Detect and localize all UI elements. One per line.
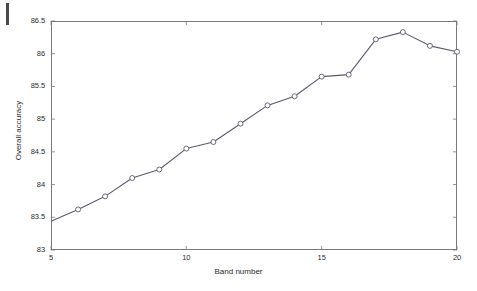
y-axis-tick-label: 85 [1,114,45,123]
x-axis-title: Band number [0,267,477,276]
data-series-line [51,32,457,221]
x-axis-tick-label: 15 [307,253,337,262]
data-point-marker [319,74,324,79]
data-point-marker [157,167,162,172]
y-axis-tick-label: 83.5 [1,212,45,221]
plot-drawing-area [0,0,477,291]
data-point-marker [211,140,216,145]
data-point-marker [373,37,378,42]
data-point-marker [265,103,270,108]
y-axis-tick-label: 86 [1,49,45,58]
data-point-marker [455,49,460,54]
y-axis-tick-label: 86.5 [1,16,45,25]
data-point-marker [76,207,81,212]
y-axis-tick-label: 84.5 [1,147,45,156]
data-point-marker [292,94,297,99]
y-axis-tick-label: 85.5 [1,81,45,90]
y-axis-tick-label: 84 [1,180,45,189]
data-point-marker [184,146,189,151]
data-point-marker [103,194,108,199]
data-point-marker [427,43,432,48]
x-axis-tick-label: 20 [442,253,472,262]
x-axis-tick-label: 5 [36,253,66,262]
data-point-marker [130,176,135,181]
figure-canvas: 8383.58484.58585.58686.5 5101520 Band nu… [0,0,477,291]
data-point-marker [238,121,243,126]
data-point-marker [346,72,351,77]
data-point-marker [400,30,405,35]
y-axis-title: Overall accuracy [14,71,23,191]
x-axis-tick-label: 10 [171,253,201,262]
